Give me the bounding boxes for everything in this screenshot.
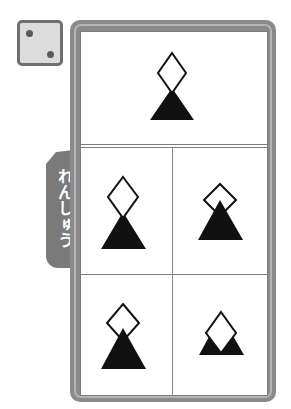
die-pip xyxy=(26,30,33,37)
triangle-shape xyxy=(198,200,243,240)
option-figure xyxy=(173,275,267,395)
divider xyxy=(81,144,267,145)
diamond-shape xyxy=(108,177,138,218)
option-figure xyxy=(81,275,172,395)
die-pip xyxy=(47,51,54,58)
diamond-shape xyxy=(158,53,186,93)
triangle-shape xyxy=(101,328,146,369)
option-figure xyxy=(81,148,172,274)
option-figure xyxy=(173,148,267,274)
puzzle-board xyxy=(80,31,268,396)
option-middle-left[interactable] xyxy=(81,148,172,274)
prompt-figure xyxy=(81,32,267,144)
option-bottom-left[interactable] xyxy=(81,275,172,395)
option-middle-right[interactable] xyxy=(173,148,267,274)
die-icon[interactable] xyxy=(17,20,63,66)
prompt-cell xyxy=(81,32,267,144)
option-bottom-right[interactable] xyxy=(173,275,267,395)
